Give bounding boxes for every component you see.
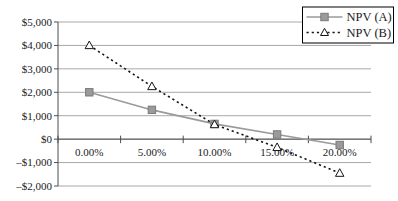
y-tick-label: $2,000	[22, 86, 53, 98]
y-tick-label: $4,000	[22, 39, 53, 51]
data-point-marker-npv-b	[85, 41, 93, 49]
npv-profile-chart: $5,000$4,000$3,000$2,000$1,000$0–$1,000–…	[0, 0, 398, 201]
y-axis-labels: $5,000$4,000$3,000$2,000$1,000$0–$1,000–…	[15, 16, 52, 192]
x-tick-label: 0.00%	[75, 146, 103, 158]
x-tick-label: 5.00%	[138, 146, 166, 158]
series-line-npv-a	[89, 92, 339, 145]
x-axis-labels: 0.00%5.00%10.00%15.00%20.00%	[75, 146, 357, 158]
chart-svg: $5,000$4,000$3,000$2,000$1,000$0–$1,000–…	[0, 0, 398, 201]
legend-label: NPV (A)	[347, 10, 392, 24]
legend: NPV (A)NPV (B)	[303, 7, 394, 43]
y-tick-label: $3,000	[22, 63, 53, 75]
data-point-marker-npv-a	[148, 106, 155, 113]
y-tick-label: $5,000	[22, 16, 53, 28]
y-tick-label: –$1,000	[15, 156, 52, 168]
data-point-marker-npv-b	[336, 169, 344, 177]
data-point-marker-npv-a	[273, 131, 280, 138]
data-point-marker-npv-b	[148, 82, 156, 90]
y-tick-label: $1,000	[22, 110, 53, 122]
data-point-marker-npv-a	[86, 89, 93, 96]
y-tick-label: $0	[41, 133, 53, 145]
y-tick-label: –$2,000	[15, 180, 52, 192]
x-tick-label: 10.00%	[198, 146, 232, 158]
y-axis	[54, 22, 58, 186]
gridlines	[58, 22, 371, 186]
series-npv-a	[86, 89, 344, 149]
legend-marker-square	[321, 13, 328, 20]
legend-label: NPV (B)	[347, 26, 392, 40]
data-point-marker-npv-a	[336, 141, 343, 148]
